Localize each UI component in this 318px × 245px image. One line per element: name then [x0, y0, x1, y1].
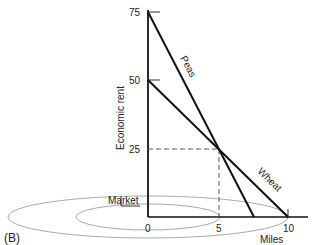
x-tick-10: 10	[283, 223, 295, 234]
rent-gradient-diagram: 75 50 25 0 5 10 Miles Economic rent Peas…	[0, 0, 318, 245]
x-tick-5: 5	[216, 223, 222, 234]
peas-line	[148, 12, 254, 217]
y-axis-label: Economic rent	[115, 86, 126, 150]
y-tick-25: 25	[129, 144, 141, 155]
x-axis-label: Miles	[260, 234, 283, 245]
x-tick-0: 0	[145, 223, 151, 234]
y-tick-75: 75	[129, 7, 141, 18]
market-label: Market	[108, 195, 139, 206]
y-tick-50: 50	[129, 75, 141, 86]
figure-label: (B)	[4, 231, 20, 245]
